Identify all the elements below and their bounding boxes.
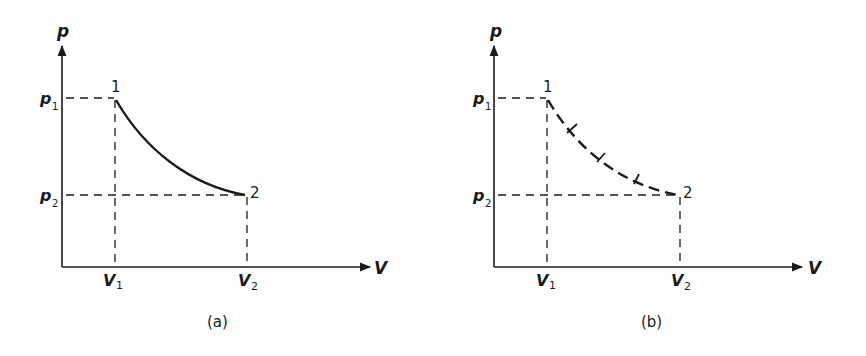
v1-subscript: 1 bbox=[549, 279, 556, 292]
v2-label: V bbox=[671, 271, 685, 290]
state-1-label: 1 bbox=[111, 78, 121, 96]
process-curve-dashed bbox=[548, 100, 678, 195]
p1-subscript: 1 bbox=[485, 101, 491, 112]
v-axis-label: V bbox=[374, 258, 389, 278]
state-1-label: 1 bbox=[543, 78, 553, 96]
panel-a: p V 1 2 p 1 p 2 V 1 V 2 (a) bbox=[39, 21, 389, 331]
state-2-label: 2 bbox=[683, 184, 693, 202]
panel-b: p V 1 2 p 1 p 2 V 1 V 2 (b) bbox=[472, 21, 823, 331]
v2-subscript: 2 bbox=[684, 280, 691, 293]
v-axis-label: V bbox=[808, 258, 823, 278]
p1-label: p bbox=[472, 89, 484, 108]
p2-label: p bbox=[39, 186, 51, 205]
caption-b: (b) bbox=[641, 313, 662, 331]
v2-subscript: 2 bbox=[251, 280, 258, 293]
caption-a: (a) bbox=[207, 313, 228, 331]
p2-label: p bbox=[472, 186, 484, 205]
v1-label: V bbox=[536, 271, 550, 290]
v2-label: V bbox=[238, 271, 252, 290]
p2-subscript: 2 bbox=[485, 198, 491, 209]
p-axis-label: p bbox=[489, 21, 502, 41]
process-curve-solid bbox=[116, 100, 245, 195]
p1-subscript: 1 bbox=[52, 101, 58, 112]
state-2-label: 2 bbox=[250, 184, 260, 202]
v1-label: V bbox=[103, 271, 117, 290]
v1-subscript: 1 bbox=[116, 279, 123, 292]
p2-subscript: 2 bbox=[52, 198, 58, 209]
pv-diagram-figure: p V 1 2 p 1 p 2 V 1 V 2 (a) p V 1 2 p bbox=[0, 0, 866, 356]
p1-label: p bbox=[39, 89, 51, 108]
p-axis-label: p bbox=[56, 21, 69, 41]
